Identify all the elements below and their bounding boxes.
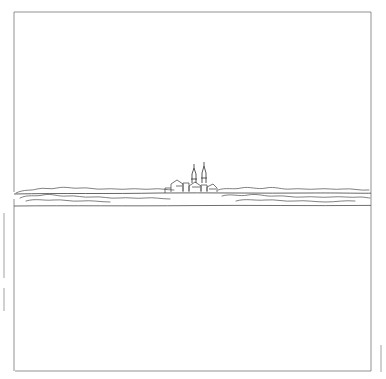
paper-background	[0, 0, 386, 379]
drawing-canvas	[0, 0, 386, 379]
line-drawing	[0, 0, 386, 379]
